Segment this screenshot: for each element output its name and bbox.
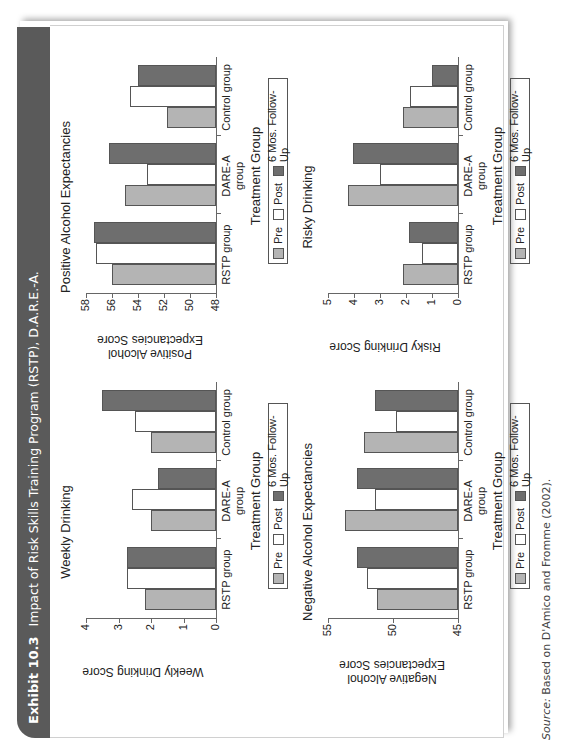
legend: Pre Post 6 Mos. Follow-Up — [510, 78, 530, 264]
plot-area: 012345 — [328, 57, 459, 294]
y-tick-label: 54 — [131, 299, 143, 329]
y-axis-label: Weekly Drinking Score — [78, 665, 208, 679]
bar-pre — [151, 432, 216, 453]
bar-post — [96, 243, 216, 264]
chart-title: Positive Alcohol Expectancies — [58, 42, 73, 372]
bar-pre — [151, 511, 216, 532]
bar-post — [396, 411, 458, 432]
source-note: Source: Based on D'Amico and Fromme (200… — [540, 479, 553, 740]
x-axis-title: Treatment Group — [248, 58, 263, 294]
x-category-label: RSTP group — [220, 220, 233, 290]
x-tick — [216, 460, 221, 461]
legend-swatch-follow-up — [515, 491, 526, 501]
legend-label: 6 Mos. Follow-Up — [508, 411, 532, 487]
legend-swatch-post — [515, 209, 526, 220]
legend-label: Pre — [514, 227, 526, 244]
bar-pre — [345, 511, 458, 532]
bar-post — [130, 86, 216, 107]
legend-item-pre: Pre — [514, 227, 526, 259]
legend-item-post: Post — [272, 183, 284, 220]
bar-pre — [364, 432, 458, 453]
x-category-label: RSTP group — [462, 545, 475, 615]
bar-post — [127, 568, 216, 589]
y-tick — [406, 293, 407, 298]
chart-title: Risky Drinking — [300, 42, 315, 372]
source-text: Based on D'Amico and Fromme (2002). — [540, 479, 553, 695]
x-tick — [458, 538, 463, 539]
x-category-label: RSTP group — [220, 545, 233, 615]
y-axis-label: Negative Alcohol Expectancies Score — [327, 658, 457, 686]
legend-swatch-pre — [515, 248, 526, 259]
source-label: Source: — [540, 698, 553, 740]
legend-label: Post — [514, 508, 526, 530]
chart-negative-alcohol-expectancies: Negative Alcohol ExpectanciesNegative Al… — [300, 367, 540, 697]
y-tick — [190, 293, 191, 298]
x-tick — [458, 135, 463, 136]
legend-label: Post — [272, 183, 284, 205]
x-category-label: DARE-A group — [220, 466, 246, 536]
legend-item-follow-up: 6 Mos. Follow-Up — [508, 86, 532, 176]
bar-pre — [403, 107, 458, 128]
bar-post — [410, 86, 458, 107]
y-tick-label: 55 — [321, 624, 333, 654]
x-axis-title: Treatment Group — [490, 383, 505, 619]
chart-risky-drinking: Risky DrinkingRisky Drinking Score012345… — [300, 42, 540, 372]
bar-pre — [112, 264, 216, 285]
bar-fu — [127, 547, 216, 568]
y-tick-label: 0 — [209, 624, 221, 654]
y-tick-label: 3 — [373, 299, 385, 329]
y-axis-label: Positive Alcohol Expectancies Score — [85, 333, 215, 361]
x-axis-title: Treatment Group — [248, 383, 263, 619]
y-tick — [328, 618, 329, 623]
bar-post — [147, 165, 216, 186]
legend-item-pre: Pre — [272, 552, 284, 584]
legend-swatch-follow-up — [273, 166, 284, 176]
x-category-label: Control group — [462, 62, 475, 132]
x-category-label: DARE-A group — [462, 141, 488, 211]
bar-post — [375, 490, 458, 511]
bar-fu — [409, 222, 458, 243]
legend-swatch-post — [273, 534, 284, 545]
chart-panel: Weekly DrinkingWeekly Drinking Score0123… — [50, 25, 504, 738]
y-tick — [216, 618, 217, 623]
bar-post — [367, 568, 458, 589]
exhibit-page: Exhibit 10.3 Impact of Risk Skills Train… — [0, 0, 571, 753]
legend-swatch-pre — [515, 573, 526, 584]
bar-fu — [357, 547, 458, 568]
x-tick — [216, 538, 221, 539]
y-tick — [458, 618, 459, 623]
legend-item-follow-up: 6 Mos. Follow-Up — [266, 411, 290, 501]
x-category-label: DARE-A group — [462, 466, 488, 536]
y-tick — [380, 293, 381, 298]
exhibit-title: Impact of Risk Skills Training Program (… — [26, 271, 41, 626]
bar-pre — [125, 186, 216, 207]
legend-swatch-follow-up — [273, 491, 284, 501]
y-tick-label: 1 — [425, 299, 437, 329]
legend-swatch-pre — [273, 573, 284, 584]
y-tick — [138, 293, 139, 298]
legend-label: Post — [514, 183, 526, 205]
y-tick-label: 4 — [347, 299, 359, 329]
legend-label: Pre — [514, 552, 526, 569]
legend-item-pre: Pre — [272, 227, 284, 259]
x-tick — [458, 460, 463, 461]
bar-fu — [353, 144, 458, 165]
bar-fu — [138, 65, 216, 86]
y-tick — [432, 293, 433, 298]
legend-item-post: Post — [272, 508, 284, 545]
chart-positive-alcohol-expectancies: Positive Alcohol ExpectanciesPositive Al… — [58, 42, 298, 372]
chart-title: Negative Alcohol Expectancies — [300, 367, 315, 697]
y-tick-label: 56 — [105, 299, 117, 329]
legend-swatch-post — [515, 534, 526, 545]
legend-swatch-follow-up — [515, 166, 526, 176]
y-tick — [216, 293, 217, 298]
y-tick — [112, 293, 113, 298]
legend-label: Post — [272, 508, 284, 530]
y-tick-label: 58 — [79, 299, 91, 329]
bar-post — [422, 243, 458, 264]
bar-pre — [167, 107, 216, 128]
y-tick — [86, 618, 87, 623]
bar-fu — [94, 222, 216, 243]
legend: Pre Post 6 Mos. Follow-Up — [510, 403, 530, 589]
y-tick-label: 50 — [386, 624, 398, 654]
